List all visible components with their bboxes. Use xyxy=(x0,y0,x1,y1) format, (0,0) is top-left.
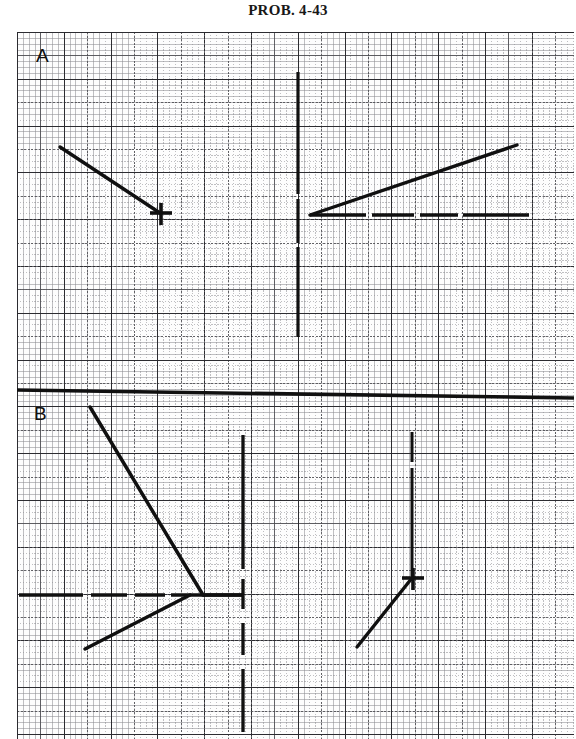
figure-page: PROB. 4-43 A B xyxy=(0,0,576,739)
panel-b-group xyxy=(19,407,424,732)
panel-a-vector-down-right xyxy=(60,147,160,213)
vector-ink-layer xyxy=(17,32,574,739)
panel-b-vector-down-right xyxy=(90,407,203,595)
panel-a-group xyxy=(60,72,548,378)
panel-divider xyxy=(17,390,574,398)
page-title: PROB. 4-43 xyxy=(0,2,576,19)
panel-b-vector-up-right xyxy=(357,578,412,647)
graph-paper-canvas: A B xyxy=(17,32,574,739)
panel-a-vector-up-right xyxy=(310,145,517,215)
panel-b-vector-down-left xyxy=(85,595,190,649)
